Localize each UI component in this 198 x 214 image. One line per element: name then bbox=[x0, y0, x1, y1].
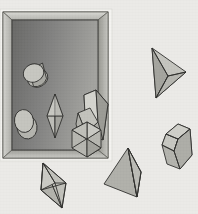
frame-bevel-top bbox=[3, 12, 108, 20]
geometric-solids-illustration bbox=[0, 0, 198, 214]
frame-bevel-left bbox=[3, 12, 12, 158]
